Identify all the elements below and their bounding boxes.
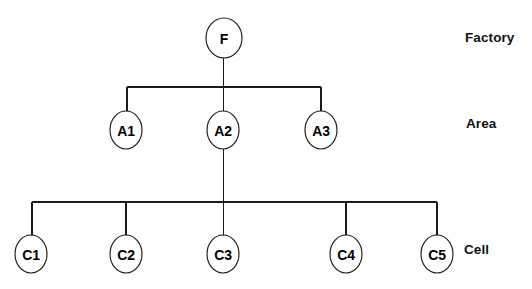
tier-label-area: Area: [466, 117, 496, 131]
node-c5[interactable]: C5: [421, 235, 453, 273]
tier-label-cell: Cell: [464, 243, 489, 257]
node-c1[interactable]: C1: [15, 235, 47, 273]
tier-label-factory: Factory: [465, 31, 514, 45]
node-c1-label: C1: [22, 247, 40, 263]
node-a2[interactable]: A2: [207, 111, 239, 149]
node-f[interactable]: F: [206, 18, 242, 58]
node-a1-label: A1: [117, 123, 135, 139]
node-c3[interactable]: C3: [207, 235, 239, 273]
node-c4[interactable]: C4: [330, 235, 362, 273]
node-c5-label: C5: [428, 247, 446, 263]
node-f-label: F: [220, 31, 229, 47]
node-c4-label: C4: [337, 247, 355, 263]
node-c3-label: C3: [214, 247, 232, 263]
node-group: F A1 A2 A3 C1 C2: [15, 18, 453, 273]
hierarchy-diagram: F A1 A2 A3 C1 C2: [0, 0, 532, 289]
connector-group: [32, 58, 437, 237]
diagram-canvas: F A1 A2 A3 C1 C2: [0, 0, 532, 289]
node-c2-label: C2: [117, 247, 135, 263]
node-a3-label: A3: [312, 123, 330, 139]
node-a2-label: A2: [214, 123, 232, 139]
node-a1[interactable]: A1: [110, 111, 142, 149]
node-a3[interactable]: A3: [305, 111, 337, 149]
node-c2[interactable]: C2: [110, 235, 142, 273]
